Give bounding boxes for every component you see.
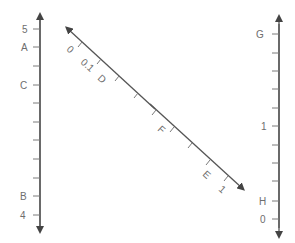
diagonal-label-0: 0	[65, 43, 77, 55]
diagonal-label-f: F	[156, 123, 168, 135]
left-ticks	[33, 29, 40, 215]
right-label-1: 1	[261, 121, 267, 132]
diagonal-label-0-1: 0.1	[79, 56, 97, 74]
diagonal-axis-line-down	[150, 104, 242, 188]
diagonal-axis-line-up	[68, 29, 155, 109]
left-label-4: 4	[20, 210, 26, 221]
right-label-h: H	[259, 196, 266, 207]
left-label-a: A	[21, 42, 28, 53]
right-label-0: 0	[260, 214, 266, 225]
nomogram-diagram: 5 A C B 4 0 0.1 D F E 1	[0, 0, 295, 243]
diagonal-ticks	[78, 42, 228, 181]
left-label-b: B	[20, 191, 27, 202]
diagonal-label-d: D	[96, 72, 109, 85]
right-ticks	[272, 34, 279, 219]
diagonal-label-1: 1	[217, 183, 229, 195]
diagonal-scale: 0 0.1 D F E 1	[65, 29, 242, 196]
left-scale: 5 A C B 4	[20, 16, 40, 230]
right-label-g: G	[256, 29, 264, 40]
right-scale: G 1 H 0	[256, 18, 279, 235]
left-label-c: C	[20, 80, 27, 91]
diagonal-label-e: E	[201, 168, 214, 181]
left-label-5: 5	[22, 24, 28, 35]
